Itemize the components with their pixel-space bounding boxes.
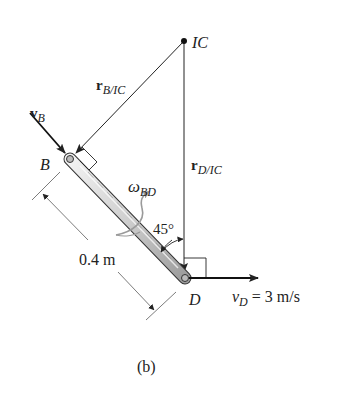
figure-caption: (b) [137, 358, 156, 376]
pin-b [67, 156, 74, 163]
label-r-d-ic: rD/IC [191, 157, 223, 177]
dimension-line-b [118, 272, 154, 310]
label-omega-bd: ωBD [128, 177, 156, 199]
label-length: 0.4 m [79, 251, 116, 268]
label-angle: 45° [153, 221, 174, 237]
label-ic: IC [191, 34, 208, 51]
label-v-d: vD = 3 m/s [232, 288, 300, 309]
label-r-b-ic: rB/IC [96, 77, 126, 97]
r-b-ic-vector [76, 41, 184, 153]
ic-point [181, 38, 187, 44]
label-v-b: vB [30, 105, 46, 125]
kinematics-diagram: IC rB/IC vB B rD/IC ωBD 45° 0.4 m D vD =… [0, 0, 343, 397]
dimension-line-a [43, 194, 88, 240]
dimension-extension-b [32, 172, 60, 200]
label-point-b: B [40, 156, 50, 173]
label-point-d: D [188, 291, 201, 308]
pin-d [182, 275, 189, 282]
